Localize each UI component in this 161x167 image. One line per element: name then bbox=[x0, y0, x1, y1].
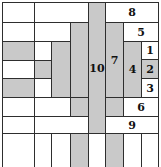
shaded-patch bbox=[51, 41, 71, 98]
plain-patch bbox=[2, 116, 35, 134]
patch-5: 5 bbox=[123, 22, 159, 42]
patch-10: 10 bbox=[88, 2, 106, 134]
patch-number-label: 9 bbox=[128, 119, 136, 132]
patch-number-label: 10 bbox=[89, 62, 104, 75]
plain-patch bbox=[34, 22, 71, 42]
shaded-patch bbox=[34, 60, 52, 79]
shaded-patch bbox=[70, 97, 89, 117]
patch-number-label: 5 bbox=[137, 26, 145, 39]
plain-patch bbox=[34, 41, 52, 61]
plain-patch bbox=[34, 116, 89, 134]
patch-3: 3 bbox=[141, 78, 159, 98]
plain-patch bbox=[123, 133, 142, 167]
plain-patch bbox=[2, 133, 35, 167]
patch-number-label: 2 bbox=[146, 63, 154, 76]
plain-patch bbox=[34, 97, 71, 117]
plain-patch bbox=[34, 133, 52, 167]
plain-patch bbox=[34, 78, 52, 98]
patch-2: 2 bbox=[141, 59, 159, 79]
shaded-patch bbox=[70, 22, 89, 98]
shaded-patch bbox=[70, 133, 89, 167]
plain-patch bbox=[2, 60, 35, 79]
patch-number-label: 8 bbox=[128, 6, 136, 19]
patch-1: 1 bbox=[141, 41, 159, 60]
patch-number-label: 6 bbox=[137, 101, 145, 114]
shaded-patch bbox=[2, 41, 35, 61]
patch-number-label: 4 bbox=[129, 63, 137, 76]
shaded-patch bbox=[2, 78, 35, 98]
patch-number-label: 1 bbox=[146, 44, 154, 57]
plain-patch bbox=[2, 97, 35, 117]
log-cabin-block-diagram: 10875412369 bbox=[0, 0, 161, 167]
shaded-patch bbox=[105, 97, 124, 117]
patch-number-label: 3 bbox=[146, 82, 154, 95]
plain-patch bbox=[34, 2, 89, 23]
plain-patch bbox=[88, 133, 106, 167]
patch-6: 6 bbox=[123, 97, 159, 117]
shaded-patch bbox=[105, 133, 124, 167]
plain-patch bbox=[51, 133, 71, 167]
plain-patch bbox=[2, 2, 35, 23]
patch-8: 8 bbox=[105, 2, 159, 23]
plain-patch bbox=[2, 22, 35, 42]
patch-7: 7 bbox=[105, 22, 124, 98]
patch-9: 9 bbox=[105, 116, 159, 134]
plain-patch bbox=[141, 133, 159, 167]
patch-number-label: 7 bbox=[111, 54, 119, 67]
patch-4: 4 bbox=[123, 41, 142, 98]
